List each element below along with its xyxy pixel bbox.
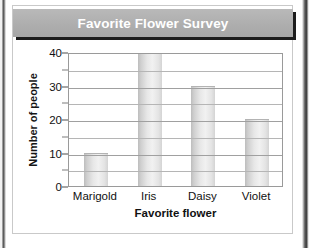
y-axis-tick-label: 10 (49, 148, 62, 160)
gridline (69, 104, 282, 105)
y-axis-tick-mark (62, 69, 68, 70)
y-axis-title-label: Number of people (27, 73, 39, 167)
x-axis-tick-label: Violet (242, 190, 271, 202)
x-axis-tick-label: Daisy (188, 190, 217, 202)
gridline (69, 171, 282, 172)
x-axis-tick-label: Marigold (73, 190, 117, 202)
y-axis-tick-label: 30 (49, 81, 62, 93)
x-axis-tick-label: Iris (141, 190, 156, 202)
bar-iris (138, 53, 162, 186)
x-axis-title: Favorite flower (68, 207, 283, 219)
gridline (69, 88, 282, 89)
scan-edge-right (297, 0, 309, 248)
x-axis-tick-labels: MarigoldIrisDaisyViolet (68, 190, 283, 206)
chart-title-banner: Favorite Flower Survey (13, 9, 293, 37)
y-axis-tick-mark (62, 120, 68, 121)
y-axis-tick-labels: 010203040 (42, 53, 64, 187)
y-axis-tick-mark (62, 187, 68, 188)
gridline (69, 71, 282, 72)
plot-area (68, 53, 283, 187)
chart-area: Number of people 010203040 MarigoldIrisD… (12, 45, 293, 233)
y-axis-tick-mark (62, 136, 68, 137)
y-axis-title: Number of people (24, 53, 42, 187)
y-axis-tick-mark (62, 170, 68, 171)
chart-title: Favorite Flower Survey (78, 16, 229, 31)
y-axis-tick-label: 20 (49, 114, 62, 126)
bar-violet (245, 119, 269, 186)
bar-marigold (84, 153, 108, 187)
y-axis-tick-mark (62, 86, 68, 87)
y-axis-tick-label: 40 (49, 47, 62, 59)
y-axis-tick-mark (62, 53, 68, 54)
gridline (69, 138, 282, 139)
gridline (69, 121, 282, 122)
bars-layer (69, 54, 282, 186)
gridline (69, 155, 282, 156)
y-axis-tick-mark (62, 103, 68, 104)
scan-edge-left (0, 0, 9, 248)
y-axis-tick-mark (62, 153, 68, 154)
